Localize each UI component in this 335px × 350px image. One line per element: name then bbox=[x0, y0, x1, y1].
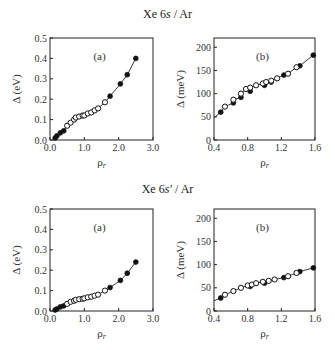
y-tick-label: 150 bbox=[196, 65, 211, 76]
data-point-open bbox=[248, 85, 253, 90]
y-axis-label: Δ (meV) bbox=[174, 70, 187, 108]
x-tick-label: 1.6 bbox=[309, 313, 322, 324]
y-tick-label: 0.2 bbox=[35, 94, 48, 105]
y-tick-label: 0.3 bbox=[35, 73, 48, 84]
data-point-filled bbox=[133, 56, 138, 61]
data-point-open bbox=[95, 292, 100, 297]
y-tick-label: 150 bbox=[196, 236, 211, 247]
x-tick-label: 2.0 bbox=[112, 142, 125, 153]
y-tick-label: 200 bbox=[196, 213, 211, 224]
y-tick-label: 0.3 bbox=[35, 244, 48, 255]
data-point-filled bbox=[108, 94, 113, 99]
data-point-filled bbox=[311, 265, 316, 270]
x-tick-label: 1.2 bbox=[275, 142, 288, 153]
data-point-open bbox=[272, 277, 277, 282]
data-point-open bbox=[266, 278, 271, 283]
x-tick-label: 1.6 bbox=[309, 142, 322, 153]
y-tick-label: 0.5 bbox=[35, 204, 48, 215]
data-point-open bbox=[102, 100, 107, 105]
data-point-filled bbox=[61, 128, 66, 133]
caption-fragment bbox=[0, 341, 335, 350]
panel-label: (b) bbox=[256, 221, 269, 234]
y-tick-label: 0.0 bbox=[35, 306, 48, 317]
data-point-open bbox=[285, 71, 290, 76]
y-tick-label: 50 bbox=[201, 282, 211, 293]
y-tick-label: 0.0 bbox=[35, 135, 48, 146]
y-axis-label: Δ (eV) bbox=[10, 74, 23, 104]
data-point-open bbox=[294, 65, 299, 70]
data-point-open bbox=[95, 106, 100, 111]
y-tick-label: 0.4 bbox=[35, 53, 48, 64]
x-tick-label: 1.0 bbox=[78, 313, 91, 324]
x-axis-label: ρr bbox=[97, 327, 107, 341]
data-point-open bbox=[222, 292, 227, 297]
data-point-filled bbox=[118, 82, 123, 87]
x-tick-label: 1.0 bbox=[78, 142, 91, 153]
panel-label: (a) bbox=[93, 50, 106, 63]
y-tick-label: 50 bbox=[201, 111, 211, 122]
y-tick-label: 100 bbox=[196, 88, 211, 99]
data-point-open bbox=[275, 76, 280, 81]
data-point-filled bbox=[133, 260, 138, 265]
data-point-open bbox=[264, 79, 269, 84]
x-tick-label: 0.8 bbox=[241, 142, 254, 153]
y-tick-label: 0 bbox=[206, 135, 211, 146]
data-point-open bbox=[285, 274, 290, 279]
data-point-open bbox=[102, 288, 107, 293]
data-point-open bbox=[269, 78, 274, 83]
x-tick-label: 3.0 bbox=[147, 313, 160, 324]
data-point-open bbox=[238, 91, 243, 96]
y-tick-label: 100 bbox=[196, 259, 211, 270]
y-tick-label: 0.1 bbox=[35, 285, 48, 296]
data-point-filled bbox=[311, 53, 316, 58]
chart-area: 0.01.02.03.00.00.10.20.30.40.5ρrΔ (eV)(a… bbox=[0, 0, 335, 350]
y-tick-label: 0 bbox=[206, 306, 211, 317]
y-tick-label: 0.2 bbox=[35, 265, 48, 276]
data-point-filled bbox=[108, 285, 113, 290]
y-axis-label: Δ (eV) bbox=[10, 245, 23, 275]
data-point-open bbox=[231, 97, 236, 102]
data-point-open bbox=[222, 104, 227, 109]
x-axis-label: ρr bbox=[260, 156, 270, 170]
data-point-open bbox=[238, 285, 243, 290]
data-point-open bbox=[260, 279, 265, 284]
y-axis-label: Δ (meV) bbox=[174, 241, 187, 279]
data-point-filled bbox=[218, 110, 223, 115]
y-tick-label: 0.5 bbox=[35, 33, 48, 44]
y-tick-label: 200 bbox=[196, 42, 211, 53]
data-point-open bbox=[253, 83, 258, 88]
x-tick-label: 1.2 bbox=[275, 313, 288, 324]
data-point-open bbox=[253, 281, 258, 286]
data-point-filled bbox=[125, 72, 130, 77]
x-axis-label: ρr bbox=[97, 156, 107, 170]
panel-label: (a) bbox=[93, 221, 106, 234]
y-tick-label: 0.1 bbox=[35, 114, 48, 125]
data-point-filled bbox=[125, 271, 130, 276]
data-point-open bbox=[231, 288, 236, 293]
x-axis-label: ρr bbox=[260, 327, 270, 341]
x-tick-label: 3.0 bbox=[147, 142, 160, 153]
panel-label: (b) bbox=[256, 50, 269, 63]
x-tick-label: 0.8 bbox=[241, 313, 254, 324]
y-tick-label: 0.4 bbox=[35, 224, 48, 235]
data-point-filled bbox=[118, 278, 123, 283]
x-tick-label: 2.0 bbox=[112, 313, 125, 324]
data-point-open bbox=[294, 270, 299, 275]
